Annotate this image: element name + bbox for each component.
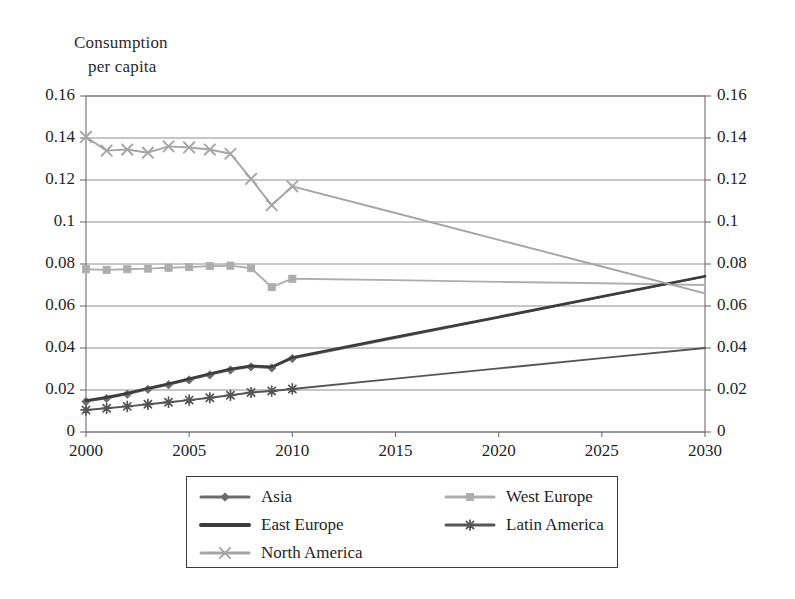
chart-ytick-label-right: 0.12: [717, 169, 777, 189]
chart-ytick-label-right: 0.08: [717, 253, 777, 273]
chart-ytick-label-left: 0.02: [17, 379, 75, 399]
legend-label: Latin America: [506, 515, 604, 535]
series-point-asterisk-marker-icon: [246, 388, 256, 398]
series-point-asterisk-marker-icon: [143, 399, 153, 409]
chart-xtick-label: 2000: [51, 441, 121, 461]
legend-label: North America: [261, 543, 363, 563]
x-marker-icon: [199, 545, 251, 561]
chart-xtick-label: 2030: [670, 441, 740, 461]
asterisk-marker-icon: [444, 517, 496, 533]
series-point-asterisk-marker-icon: [164, 397, 174, 407]
chart-ytick-label-left: 0.08: [17, 253, 75, 273]
chart-ytick-label-right: 0.16: [717, 85, 777, 105]
chart-figure: Consumption per capita 000.020.020.040.0…: [0, 0, 795, 599]
series-point-asterisk-marker-icon: [225, 390, 235, 400]
series-line-path: [86, 137, 705, 293]
chart-ytick-label-left: 0: [17, 421, 75, 441]
series-point-asterisk-marker-icon: [205, 393, 215, 403]
chart-ytick-label-left: 0.12: [17, 169, 75, 189]
chart-xtick-label: 2025: [567, 441, 637, 461]
chart-axis-title-line-1: Consumption: [74, 32, 168, 53]
series-point-x-marker-icon: [267, 200, 277, 210]
chart-ytick-label-right: 0: [717, 421, 777, 441]
chart-ytick-label-right: 0.14: [717, 127, 777, 147]
legend-entry-west-europe[interactable]: West Europe: [444, 487, 659, 507]
chart-series-asia: [82, 277, 705, 406]
square-marker-icon: [444, 489, 496, 505]
chart-ytick-label-left: 0.14: [17, 127, 75, 147]
chart-xtick-label: 2015: [361, 441, 431, 461]
chart-series-east-europe: [86, 276, 705, 400]
chart-ytick-label-right: 0.06: [717, 295, 777, 315]
chart-xtick-label: 2010: [257, 441, 327, 461]
series-point-square-marker-icon: [124, 266, 131, 273]
series-point-asterisk-marker-icon: [122, 401, 132, 411]
series-point-asterisk-marker-icon: [102, 403, 112, 413]
series-point-diamond-marker-icon: [221, 493, 229, 501]
series-point-square-marker-icon: [206, 263, 213, 270]
series-point-square-marker-icon: [82, 266, 89, 273]
legend-label: West Europe: [506, 487, 593, 507]
chart-axis-title-line-2: per capita: [88, 56, 157, 77]
legend-label: East Europe: [261, 515, 344, 535]
chart-series-west-europe: [82, 262, 705, 291]
legend-entry-east-europe[interactable]: East Europe: [199, 515, 444, 535]
chart-xtick-label: 2020: [464, 441, 534, 461]
series-point-square-marker-icon: [268, 284, 275, 291]
series-point-asterisk-marker-icon: [465, 520, 475, 530]
chart-ytick-label-right: 0.04: [717, 337, 777, 357]
chart-ytick-label-left: 0.04: [17, 337, 75, 357]
series-point-square-marker-icon: [103, 266, 110, 273]
series-point-asterisk-marker-icon: [267, 386, 277, 396]
chart-ytick-label-right: 0.02: [717, 379, 777, 399]
chart-ytick-label-right: 0.1: [717, 211, 777, 231]
legend-label: Asia: [261, 487, 292, 507]
series-point-asterisk-marker-icon: [81, 405, 91, 415]
series-point-square-marker-icon: [165, 264, 172, 271]
legend-entry-asia[interactable]: Asia: [199, 487, 444, 507]
series-point-square-marker-icon: [247, 265, 254, 272]
series-point-square-marker-icon: [227, 262, 234, 269]
chart-series-north-america: [81, 132, 705, 294]
chart-ytick-label-left: 0.06: [17, 295, 75, 315]
chart-ytick-label-left: 0.16: [17, 85, 75, 105]
chart-ytick-label-left: 0.1: [17, 211, 75, 231]
series-point-square-marker-icon: [186, 264, 193, 271]
line-marker-icon: [199, 517, 251, 533]
series-point-x-marker-icon: [246, 174, 256, 184]
series-line-path: [86, 348, 705, 410]
legend-entry-north-america[interactable]: North America: [199, 543, 444, 563]
series-point-square-marker-icon: [466, 493, 473, 500]
series-point-square-marker-icon: [144, 265, 151, 272]
series-point-square-marker-icon: [289, 275, 296, 282]
chart-xtick-label: 2005: [154, 441, 224, 461]
series-point-asterisk-marker-icon: [287, 384, 297, 394]
diamond-marker-icon: [199, 489, 251, 505]
series-line-path: [86, 276, 705, 400]
series-point-asterisk-marker-icon: [184, 395, 194, 405]
legend-entry-latin-america[interactable]: Latin America: [444, 515, 659, 535]
chart-legend: AsiaWest EuropeEast EuropeLatin AmericaN…: [186, 476, 618, 568]
